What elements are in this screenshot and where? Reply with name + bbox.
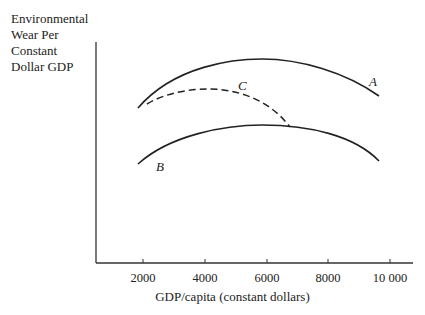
x-tick-label-8000: 8000 bbox=[316, 271, 341, 285]
chart-canvas: 2000 4000 6000 8000 10 000 A B C bbox=[0, 0, 425, 315]
x-tick-label-4000: 4000 bbox=[193, 271, 218, 285]
curve-a-label: A bbox=[368, 74, 377, 89]
x-tick-label-6000: 6000 bbox=[255, 271, 280, 285]
x-tick-label-10000: 10 000 bbox=[373, 271, 407, 285]
curve-b bbox=[138, 125, 379, 164]
x-axis-label: GDP/capita (constant dollars) bbox=[0, 289, 425, 305]
curve-b-label: B bbox=[156, 159, 164, 174]
curve-c-label: C bbox=[238, 78, 247, 93]
curve-c bbox=[147, 89, 290, 127]
x-tick-label-2000: 2000 bbox=[131, 271, 156, 285]
